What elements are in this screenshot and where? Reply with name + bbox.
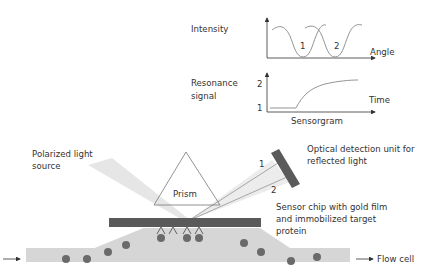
sensorgram-caption: Sensorgram xyxy=(291,116,343,126)
sensorgram-chart: Resonance signal 2 1 Time Sensorgram xyxy=(191,73,390,126)
sensor-chip xyxy=(109,218,261,227)
resonance-label-line2: signal xyxy=(191,91,216,101)
dip-label-1: 1 xyxy=(300,41,305,51)
detector-label-line2: reflected light xyxy=(307,156,368,166)
flow-cell-label: Flow cell xyxy=(377,254,414,264)
prism-label: Prism xyxy=(173,189,197,199)
angle-label: Angle xyxy=(370,47,394,57)
beam-label-2: 2 xyxy=(271,185,276,195)
dip-label-2: 2 xyxy=(334,41,339,51)
resonance-label-line1: Resonance xyxy=(191,78,238,88)
spr-apparatus: Prism 1 2 xyxy=(3,144,415,265)
chip-label-line1: Sensor chip with gold film xyxy=(276,202,387,212)
beam-label-1: 1 xyxy=(259,159,264,169)
time-label: Time xyxy=(368,95,390,105)
chip-label-line3: protein xyxy=(276,226,307,236)
detector-label-line1: Optical detection unit for xyxy=(307,144,415,154)
intensity-chart: Intensity 1 2 Angle xyxy=(191,18,394,58)
spr-diagram: Intensity 1 2 Angle Resonance signal 2 1… xyxy=(0,0,441,280)
reflected-ray-2 xyxy=(188,177,287,221)
intensity-label: Intensity xyxy=(191,24,228,34)
light-source-label-line2: source xyxy=(32,161,61,171)
chip-label-line2: and immobilized target xyxy=(276,214,377,224)
sensorgram-curve xyxy=(270,80,358,108)
ytick-1: 1 xyxy=(257,103,262,113)
reflected-ray-1 xyxy=(188,163,278,221)
light-source-label-line1: Polarized light xyxy=(32,149,93,159)
ytick-2: 2 xyxy=(257,79,262,89)
